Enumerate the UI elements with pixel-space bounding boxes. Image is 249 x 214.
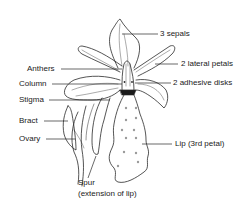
- left-lower-sepal: [64, 76, 120, 100]
- label-column: Column: [19, 79, 47, 88]
- stigma: [120, 90, 136, 95]
- label-adhesive-disks: 2 adhesive disks: [173, 78, 232, 87]
- label-spur-note: (extension of lip): [78, 189, 137, 198]
- label-ovary: Ovary: [19, 134, 40, 143]
- lip-spots: [117, 107, 139, 167]
- label-spur: Spur: [78, 178, 95, 187]
- label-lateral-petals: 2 lateral petals: [181, 59, 233, 68]
- lip: [109, 95, 148, 182]
- orchid-illustration: [0, 0, 249, 214]
- label-stigma: Stigma: [19, 95, 44, 104]
- bract: [63, 106, 76, 150]
- spur: [92, 98, 110, 154]
- left-lateral-petal: [78, 46, 122, 72]
- right-lateral-petal: [134, 46, 175, 76]
- ovary: [72, 106, 86, 186]
- right-lower-sepal: [136, 79, 168, 108]
- label-anthers: Anthers: [27, 64, 55, 73]
- orchid-diagram: 3 sepals 2 lateral petals 2 adhesive dis…: [0, 0, 249, 214]
- label-lip: Lip (3rd petal): [175, 139, 224, 148]
- leader-lines: [44, 34, 178, 178]
- label-bract: Bract: [19, 116, 38, 125]
- label-sepals: 3 sepals: [160, 29, 190, 38]
